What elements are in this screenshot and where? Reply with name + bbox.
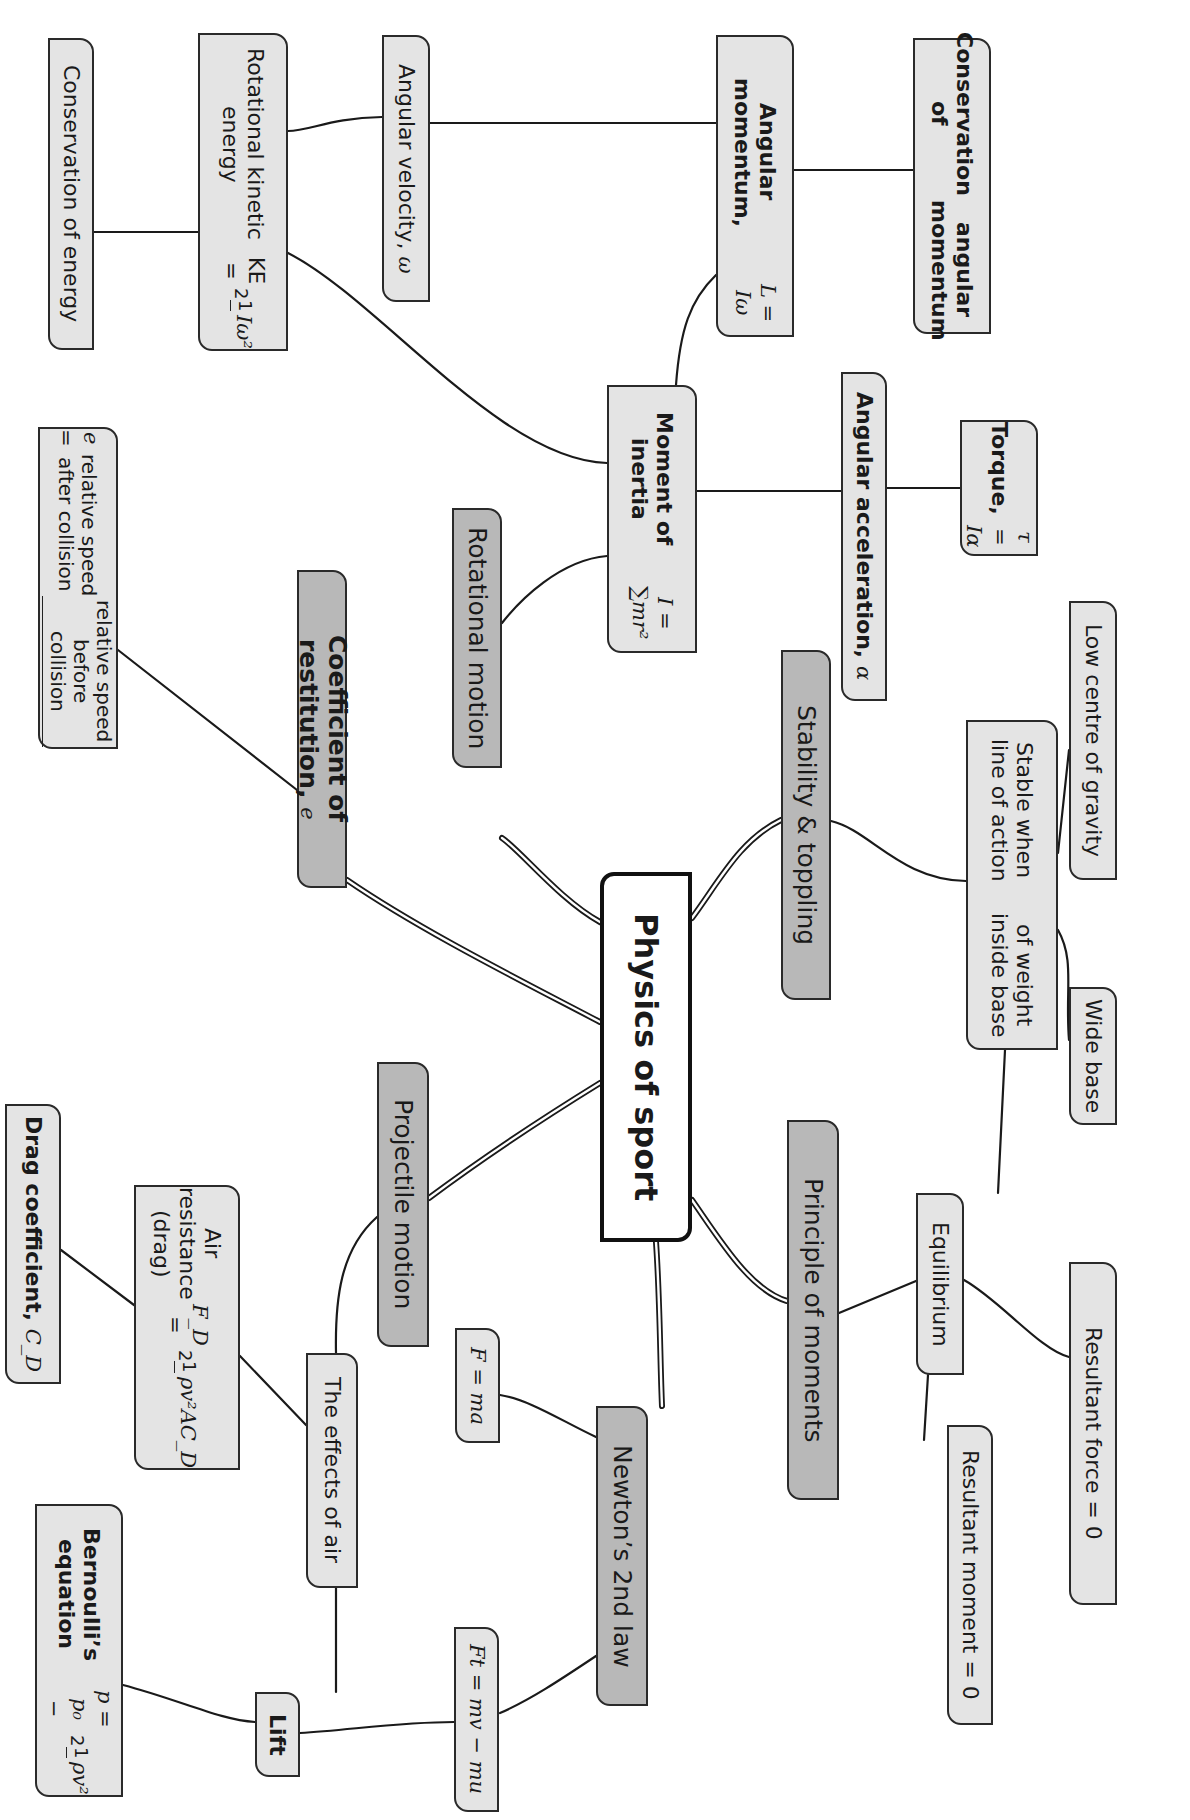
node-resultant-force: Resultant force = 0 [1069, 1262, 1117, 1605]
branch-label: Coefficient of restitution, e [293, 572, 351, 886]
bernoulli-formula: p = p₀ − 2 1 ρv² [41, 1687, 117, 1795]
node-f-equals-ma: F = ma [455, 1328, 500, 1443]
node-torque: Torque, τ = Iα [960, 420, 1038, 556]
node-equilibrium: Equilibrium [916, 1193, 964, 1375]
node-label: Conservation of energy [58, 65, 83, 322]
node-formula: F = ma [465, 1347, 490, 1425]
node-label: Moment of inertia [627, 387, 678, 571]
node-formula: L = Iω [730, 271, 780, 335]
node-label: Equilibrium [927, 1222, 952, 1347]
branch-label: Newton’s 2nd law [608, 1445, 637, 1668]
branch-coefficient-of-restitution: Coefficient of restitution, e [297, 570, 347, 888]
node-conservation-of-angular-momentum: Conservation of angular momentum [913, 38, 991, 334]
fraction-half: 2 1 [174, 1350, 200, 1373]
node-impulse: Ft = mv − mu [454, 1627, 499, 1812]
node-lift: Lift [255, 1692, 300, 1777]
node-resultant-moment: Resultant moment = 0 [947, 1425, 993, 1725]
node-formula: I = ∑mr² [627, 575, 677, 651]
branch-label: Stability & toppling [792, 705, 821, 945]
omega-symbol: ω [394, 256, 418, 273]
node-label: Angular velocity, ω [393, 64, 419, 274]
fraction-half: 2 1 [230, 288, 256, 311]
node-drag-coefficient: Drag coefficient, C_D [5, 1104, 61, 1384]
fraction-numerator: relative speed before collision [42, 596, 115, 747]
node-label: Angular momentum, [730, 37, 781, 267]
node-label: Resultant force = 0 [1080, 1327, 1105, 1540]
node-bernoulli-equation: Bernoulli’s equation p = p₀ − 2 1 ρv² [35, 1504, 123, 1797]
node-label: Torque, [986, 422, 1011, 515]
node-moment-of-inertia: Moment of inertia I = ∑mr² [607, 385, 697, 653]
drag-formula: F_D = 2 1 ρv²AC_D [162, 1304, 212, 1468]
branch-label: Rotational motion [463, 527, 492, 749]
branch-label: Projectile motion [389, 1099, 418, 1309]
fraction-half: 2 1 [66, 1735, 92, 1758]
branch-stability-toppling: Stability & toppling [781, 650, 831, 1000]
node-label: Wide base [1080, 999, 1105, 1113]
branch-projectile-motion: Projectile motion [377, 1062, 429, 1347]
node-label: Bernoulli’s equation [54, 1506, 105, 1683]
branch-label: Principle of moments [799, 1178, 828, 1443]
node-restitution-formula: e = relative speed after collision relat… [38, 427, 118, 749]
node-angular-momentum: Angular momentum, L = Iω [716, 35, 794, 337]
branch-newtons-2nd-law: Newton’s 2nd law [596, 1406, 648, 1706]
root-label: Physics of sport [628, 913, 665, 1201]
node-wide-base: Wide base [1069, 987, 1117, 1125]
fraction-denominator: relative speed after collision [54, 453, 103, 595]
node-effects-of-air: The effects of air [306, 1353, 358, 1588]
node-label: Rotational kinetic energy [218, 35, 269, 253]
node-stable-when: Stable when line of action of weight ins… [966, 720, 1058, 1050]
node-angular-velocity: Angular velocity, ω [382, 35, 430, 302]
branch-rotational-motion: Rotational motion [452, 508, 502, 768]
alpha-symbol: α [852, 666, 876, 680]
node-air-resistance: Air resistance (drag) F_D = 2 1 ρv²AC_D [134, 1185, 240, 1470]
branch-principle-of-moments: Principle of moments [787, 1120, 839, 1500]
node-rotational-kinetic-energy: Rotational kinetic energy KE = 2 1 Iω² [198, 33, 288, 351]
node-formula: τ = Iα [961, 519, 1037, 554]
node-label: Resultant moment = 0 [957, 1450, 982, 1700]
node-angular-acceleration: Angular acceleration, α [841, 372, 887, 701]
node-label: Low centre of gravity [1080, 624, 1105, 857]
root-node-physics-of-sport: Physics of sport [600, 872, 692, 1242]
node-label: Drag coefficient, C_D [20, 1116, 46, 1372]
node-formula: Ft = mv − mu [464, 1644, 489, 1794]
node-label: Lift [265, 1714, 290, 1756]
node-label: The effects of air [319, 1377, 344, 1563]
node-label: Air resistance (drag) [149, 1187, 225, 1300]
node-conservation-of-energy: Conservation of energy [48, 38, 94, 350]
ke-formula: KE = 2 1 Iω² [218, 257, 268, 349]
cd-symbol: C_D [21, 1329, 45, 1372]
node-label: Angular acceleration, α [851, 392, 877, 680]
node-low-centre-of-gravity: Low centre of gravity [1069, 601, 1117, 880]
